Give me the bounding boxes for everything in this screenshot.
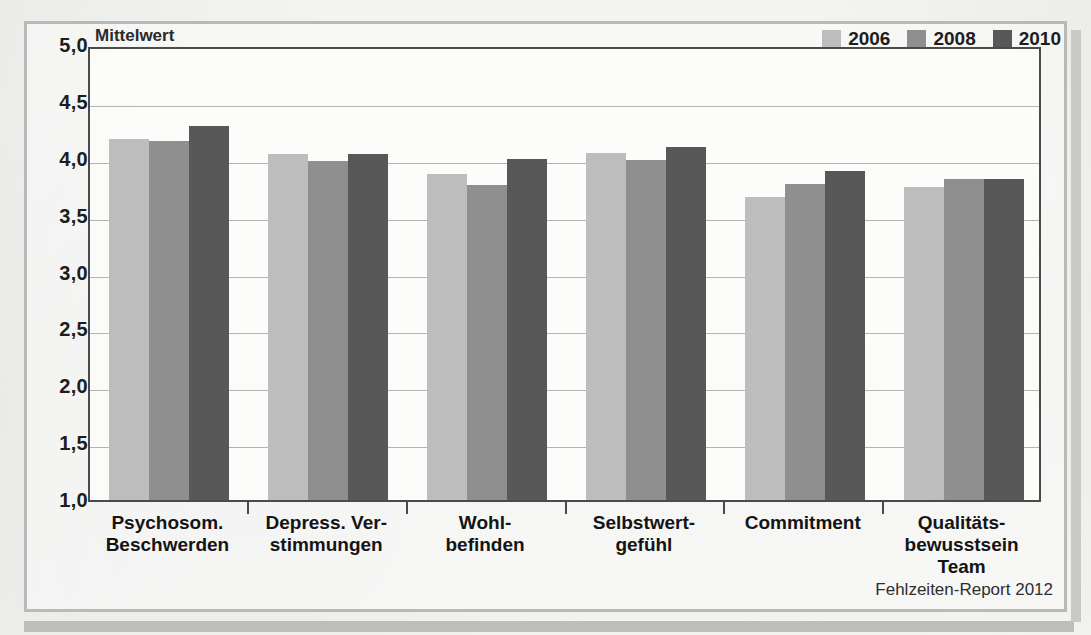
legend-swatch-icon	[907, 30, 926, 49]
y-tick-label: 3,5	[26, 205, 88, 228]
y-tick-label: 2,5	[26, 318, 88, 341]
source-note: Fehlzeiten-Report 2012	[875, 580, 1053, 600]
y-tick-label: 3,0	[26, 262, 88, 285]
bar-2008-3	[467, 185, 507, 500]
category-label: Depress. Ver- stimmungen	[247, 512, 406, 556]
bar-group	[408, 49, 567, 500]
bar-2010-5	[825, 171, 865, 500]
bar-2006-6	[904, 187, 944, 500]
bar-2010-3	[507, 159, 547, 500]
bar-2008-5	[785, 184, 825, 500]
bar-2006-5	[745, 197, 785, 500]
bar-2006-4	[586, 153, 626, 500]
bars-layer	[90, 49, 1039, 500]
category-label: Commitment	[723, 512, 882, 534]
legend-swatch-icon	[993, 30, 1012, 49]
bar-2008-2	[308, 161, 348, 500]
category-label: Selbstwert- gefühl	[565, 512, 724, 556]
y-tick-label: 1,5	[26, 432, 88, 455]
category-label: Psychosom. Beschwerden	[88, 512, 247, 556]
y-tick-label: 4,5	[26, 91, 88, 114]
category-label: Qualitäts- bewusstsein Team	[882, 512, 1041, 578]
bar-2008-4	[626, 160, 666, 500]
y-tick-label: 2,0	[26, 375, 88, 398]
bar-2008-6	[944, 179, 984, 500]
figure-page: Mittelwert 200620082010 5,04,54,03,53,02…	[0, 0, 1091, 635]
category-label: Wohl- befinden	[406, 512, 565, 556]
legend-swatch-icon	[822, 30, 841, 49]
bar-group	[725, 49, 884, 500]
y-axis-unit-label: Mittelwert	[95, 26, 174, 46]
bar-2006-3	[427, 174, 467, 500]
bar-group	[90, 49, 249, 500]
bar-2010-1	[189, 126, 229, 500]
y-tick-label: 1,0	[26, 489, 88, 512]
bar-2010-4	[666, 147, 706, 500]
bar-2006-1	[109, 139, 149, 500]
right-decorative-band	[1071, 30, 1081, 622]
bar-2010-2	[348, 154, 388, 500]
bar-group	[567, 49, 726, 500]
plot-area	[88, 47, 1041, 502]
bar-group	[249, 49, 408, 500]
y-tick-label: 5,0	[26, 34, 88, 57]
bar-2006-2	[268, 154, 308, 500]
y-tick-label: 4,0	[26, 148, 88, 171]
bar-group	[884, 49, 1043, 500]
bottom-decorative-band	[24, 621, 1074, 632]
bar-2010-6	[984, 179, 1024, 500]
bar-2008-1	[149, 141, 189, 500]
